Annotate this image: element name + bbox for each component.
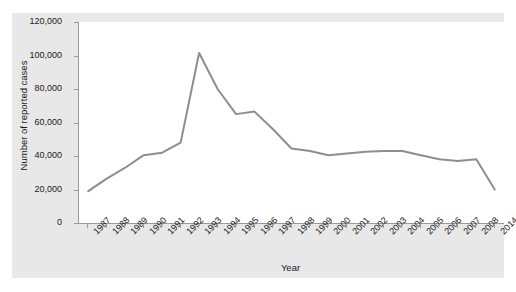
y-axis-title: Number of reported cases [18,26,29,206]
x-axis-tick-mark [124,224,125,228]
x-axis-tick-mark [457,224,458,228]
plot-area [78,22,504,224]
x-axis-tick-mark [272,224,273,228]
x-axis-tick-mark [309,224,310,228]
y-axis-tick-label: 60,000 [34,118,62,127]
x-axis-tick-mark [438,224,439,228]
x-axis-tick-mark [235,224,236,228]
y-axis-tick-label: 80,000 [34,84,62,93]
y-axis-tick-mark [74,89,78,90]
y-axis-tick-labels: 020,00040,00060,00080,000100,000120,000 [0,0,72,292]
x-axis-tick-mark [494,224,495,228]
x-axis-tick-mark [475,224,476,228]
x-axis-tick-mark [180,224,181,228]
x-axis-tick-mark [383,224,384,228]
y-axis-tick-mark [74,223,78,224]
x-axis-tick-mark [327,224,328,228]
x-axis-tick-mark [254,224,255,228]
y-axis-tick-label: 40,000 [34,151,62,160]
x-axis-title: Year [78,262,503,273]
y-axis-tick-mark [74,22,78,23]
y-axis-tick-label: 120,000 [29,17,62,26]
line-series-svg [79,22,504,223]
x-axis-tick-mark [198,224,199,228]
data-line-reported-cases [88,53,495,191]
y-axis-tick-label: 20,000 [34,185,62,194]
x-axis-tick-mark [291,224,292,228]
y-axis-tick-label: 0 [57,218,62,227]
chart-figure: 020,00040,00060,00080,000100,000120,000 … [0,0,516,292]
y-axis-tick-mark [74,123,78,124]
y-axis-tick-mark [74,156,78,157]
x-axis-tick-mark [87,224,88,228]
x-axis-tick-mark [143,224,144,228]
x-axis-tick-mark [364,224,365,228]
y-axis-tick-label: 100,000 [29,51,62,60]
x-axis-tick-mark [106,224,107,228]
y-axis-tick-mark [74,56,78,57]
y-axis-tick-mark [74,190,78,191]
x-axis-tick-mark [161,224,162,228]
x-axis-tick-mark [217,224,218,228]
x-axis-tick-mark [346,224,347,228]
x-axis-tick-mark [401,224,402,228]
x-axis-tick-mark [420,224,421,228]
